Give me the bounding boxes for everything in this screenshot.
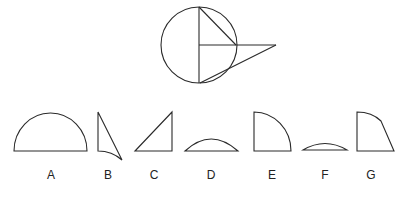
- option-f-label: F: [315, 168, 335, 182]
- tangent-line: [200, 45, 276, 83]
- option-e-shape[interactable]: [254, 112, 291, 151]
- option-e-label: E: [262, 168, 282, 182]
- top-chord: [199, 7, 236, 45]
- option-a-shape[interactable]: [14, 113, 87, 151]
- option-d-shape[interactable]: [185, 139, 238, 151]
- option-f-shape[interactable]: [303, 144, 347, 151]
- option-d-label: D: [201, 168, 221, 182]
- option-g-label: G: [361, 168, 381, 182]
- option-c-shape[interactable]: [135, 112, 172, 151]
- option-b-shape[interactable]: [98, 112, 122, 160]
- option-a-label: A: [41, 168, 61, 182]
- option-c-label: C: [144, 168, 164, 182]
- option-g-shape[interactable]: [357, 112, 394, 151]
- option-b-label: B: [98, 168, 118, 182]
- reference-figure: [161, 7, 276, 83]
